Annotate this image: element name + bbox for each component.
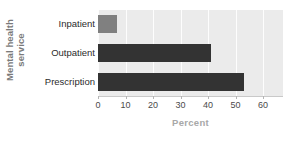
x-tick-label: 20 — [148, 100, 158, 110]
x-tick-mark — [181, 96, 182, 99]
x-tick-label: 30 — [175, 100, 185, 110]
x-tick-mark — [153, 96, 154, 99]
x-tick-mark — [98, 96, 99, 99]
category-axis-labels: InpatientOutpatientPrescription — [30, 10, 98, 96]
y-axis-title-line1: Mental health — [4, 19, 15, 81]
category-label: Inpatient — [59, 19, 95, 29]
x-tick-label: 40 — [203, 100, 213, 110]
x-tick-label: 10 — [120, 100, 130, 110]
x-axis-title: Percent — [98, 117, 283, 128]
category-label: Prescription — [45, 77, 95, 87]
category-label: Outpatient — [51, 48, 95, 58]
x-tick-mark — [236, 96, 237, 99]
y-axis-title: Mental health service — [0, 0, 30, 100]
x-tick-mark — [263, 96, 264, 99]
y-axis-title-line2: service — [15, 19, 26, 81]
x-tick-label: 50 — [230, 100, 240, 110]
gridline — [263, 10, 264, 96]
bar-chart: Mental health service InpatientOutpatien… — [0, 0, 296, 141]
x-tick-mark — [126, 96, 127, 99]
x-tick-label: 0 — [95, 100, 100, 110]
x-tick-label: 60 — [258, 100, 268, 110]
bar — [98, 15, 117, 33]
x-tick-mark — [208, 96, 209, 99]
bar — [98, 73, 244, 91]
plot-area — [98, 10, 283, 96]
bar — [98, 44, 211, 62]
